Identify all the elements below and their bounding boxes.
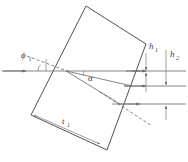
h2-subscript: 2 — [176, 55, 179, 61]
t1-dimension — [34, 115, 100, 144]
dashed-normal-line — [27, 56, 70, 72]
alpha-symbol: α — [88, 73, 93, 83]
label-alpha: α — [88, 73, 93, 83]
label-h-two: h 2 — [170, 49, 179, 61]
h2-symbol: h — [170, 49, 175, 59]
t1-subscript: 1 — [67, 122, 70, 128]
diagram-canvas: ϕ 1 α h 1 h 2 t 1 — [0, 0, 188, 162]
refracted-ray-upper — [66, 71, 132, 86]
label-t-one: t 1 — [62, 116, 70, 128]
label-phi-one: ϕ 1 — [21, 50, 32, 62]
phi-subscript: 1 — [29, 56, 32, 62]
h1-subscript: 1 — [155, 47, 158, 53]
label-h-one: h 1 — [149, 41, 158, 53]
phi-symbol: ϕ — [21, 50, 26, 60]
t1-symbol: t — [62, 116, 65, 126]
h1-symbol: h — [149, 41, 154, 51]
refracted-ray-lower — [66, 71, 120, 104]
ray-diagram-figure: ϕ 1 α h 1 h 2 t 1 — [0, 0, 188, 162]
